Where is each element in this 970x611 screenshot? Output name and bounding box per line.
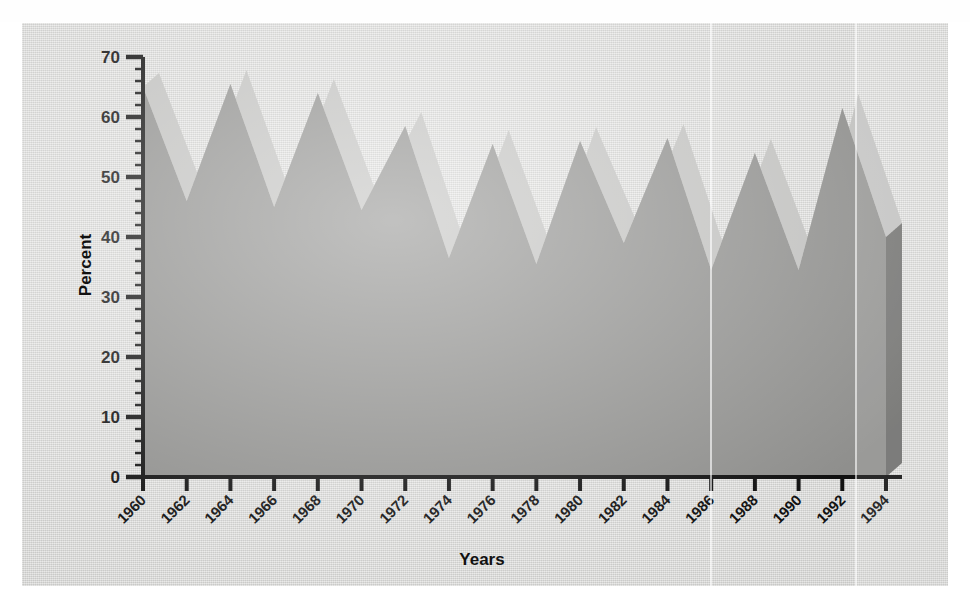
x-tick-label: 1984 (638, 491, 674, 527)
scan-seam-line-1 (710, 23, 712, 586)
x-tick-label: 1992 (813, 491, 849, 527)
x-tick-label: 1972 (376, 491, 412, 527)
y-tick-label: 60 (101, 108, 120, 127)
y-tick-labels: 010203040506070 (101, 48, 120, 487)
x-tick-label: 1960 (114, 491, 150, 527)
scan-right-band (857, 23, 948, 586)
x-tick-label: 1976 (463, 491, 499, 527)
y-tick-label: 70 (101, 48, 120, 67)
x-tick-label: 1970 (332, 491, 368, 527)
y-tick-label: 20 (101, 348, 120, 367)
x-tick-label: 1962 (157, 491, 193, 527)
x-tick-label: 1990 (769, 491, 805, 527)
y-tick-label: 50 (101, 168, 120, 187)
x-tick-label: 1982 (594, 491, 630, 527)
x-tick-label: 1966 (245, 491, 281, 527)
scan-seam-line-2 (855, 23, 857, 586)
x-tick-labels: 1960196219641966196819701972197419761978… (114, 491, 893, 527)
y-tick-label: 0 (111, 468, 120, 487)
area-chart-plot: 010203040506070 196019621964196619681970… (22, 23, 948, 586)
chart-panel: 010203040506070 196019621964196619681970… (22, 23, 948, 586)
y-axis-title: Percent (76, 195, 96, 335)
x-axis-title: Years (402, 550, 562, 570)
y-tick-label: 40 (101, 228, 120, 247)
y-tick-label: 10 (101, 408, 120, 427)
x-tick-label: 1978 (507, 491, 543, 527)
x-tick-label: 1980 (551, 491, 587, 527)
ribbon-3d-surface (143, 70, 902, 477)
x-tick-label: 1964 (201, 491, 237, 527)
figure-page: 010203040506070 196019621964196619681970… (0, 0, 970, 611)
x-tick-label: 1988 (725, 491, 761, 527)
x-tick-label: 1974 (419, 491, 455, 527)
top-cut-text-strip (0, 0, 970, 22)
y-tick-label: 30 (101, 288, 120, 307)
x-tick-label: 1968 (288, 491, 324, 527)
